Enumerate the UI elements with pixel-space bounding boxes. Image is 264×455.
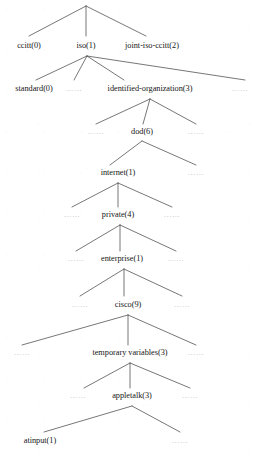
tree-edge [86,6,146,36]
tree-edge [36,56,87,80]
tree-edge [84,363,130,388]
tree-node-atinput: atinput(1) [24,436,56,445]
tree-edge [87,56,124,80]
tree-node-joint: joint-iso-ccitt(2) [125,41,179,50]
tree-node-iso: iso(1) [76,41,95,50]
tree-edge [80,269,124,296]
tree-edge [128,315,196,345]
tree-edge [143,99,150,124]
tree-edge [142,141,196,165]
tree-edge [76,225,120,251]
tree-edge [74,56,87,80]
ellipsis-e-identorg-r: …… [232,85,248,93]
tree-node-appletalk: appletalk(3) [112,391,152,400]
tree-edge [120,225,176,251]
ellipsis-e-dod-l: …… [88,128,104,136]
ellipsis-e-atinput-r: …… [172,437,188,445]
ellipsis-e-apple-r: …… [182,392,198,400]
ellipsis-e-ent-l: …… [68,255,84,263]
tree-edge [87,56,245,80]
tree-edges [0,0,264,455]
ellipsis-e-cisco-l: …… [72,301,88,309]
tree-node-tempvars: temporary variables(3) [92,348,167,357]
tree-node-dod: dod(6) [131,127,153,136]
tree-edge [22,315,128,345]
tree-node-enterprise: enterprise(1) [101,254,143,263]
tree-edge [96,99,150,124]
ellipsis-e-ent-r: …… [168,255,184,263]
ellipsis-e-dod-r: …… [188,128,204,136]
tree-edge [124,269,182,296]
tree-node-private: private(4) [102,210,134,219]
tree-edge [118,183,172,207]
tree-edge [132,406,180,432]
ellipsis-e-private-r: …… [164,211,180,219]
tree-edge [130,363,190,388]
tree-edge [29,6,86,36]
tree-node-internet: internet(1) [101,168,136,177]
tree-node-ccitt: ccitt(0) [17,41,41,50]
ellipsis-e-apple-l: …… [70,392,86,400]
ellipsis-e-temp-r: …… [188,349,204,357]
tree-node-identorg: identified-organization(3) [108,84,193,93]
oid-tree-figure: ccitt(0)iso(1)joint-iso-ccitt(2)standard… [0,0,264,455]
ellipsis-e-standard-r: …… [66,85,82,93]
tree-edge [150,99,196,124]
ellipsis-e-temp-l: …… [14,349,30,357]
tree-node-standard: standard(0) [15,84,52,93]
ellipsis-e-private-l: …… [64,211,80,219]
tree-edge [110,141,142,165]
tree-edge [72,183,118,207]
tree-node-cisco: cisco(9) [115,300,141,309]
ellipsis-e-cisco-r: …… [174,301,190,309]
ellipsis-e-internet-r: …… [188,169,204,177]
tree-edge [44,406,132,432]
